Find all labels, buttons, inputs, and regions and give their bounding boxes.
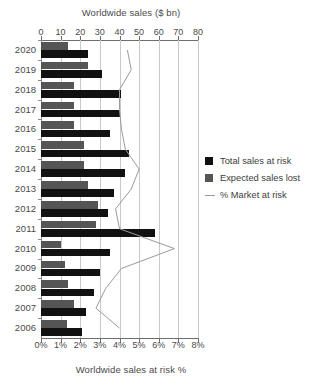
bottom-tick-label: 5% [133,340,146,350]
chart-legend: Total sales at riskExpected sales lost% … [205,155,317,206]
year-label: 2017 [15,104,36,115]
plot-area: 2020201920182017201620152014201320122011… [41,40,198,338]
bottom-tick-label: 4% [113,340,126,350]
year-label: 2019 [15,64,36,75]
legend-item[interactable]: Expected sales lost [205,172,317,184]
bottom-tick-label: 6% [152,340,165,350]
year-label: 2020 [15,44,36,55]
year-label: 2018 [15,84,36,95]
bottom-axis-title: Worldwide sales at risk % [0,364,320,375]
year-label: 2016 [15,123,36,134]
legend-label: Total sales at risk [220,155,291,167]
year-label: 2013 [15,183,36,194]
top-axis-tick-labels: 01020304050607080 [0,27,320,39]
bottom-tick-label: 2% [74,340,87,350]
year-label: 2014 [15,163,36,174]
year-label: 2006 [15,322,36,333]
legend-item[interactable]: % Market at risk [205,189,317,201]
chart-container: Worldwide sales ($ bn) 01020304050607080… [0,0,320,387]
top-axis-title: Worldwide sales ($ bn) [0,7,320,18]
bottom-tick-label: 1% [54,340,67,350]
year-label: 2011 [16,223,36,234]
market-at-risk-polyline [96,50,175,328]
year-label: 2008 [15,282,36,293]
legend-square-swatch-icon [205,157,213,165]
bottom-tick-label: 7% [172,340,185,350]
year-label: 2009 [15,262,36,273]
bottom-tick-label: 8% [191,340,204,350]
year-label: 2007 [15,302,36,313]
year-label: 2012 [15,203,36,214]
legend-label: Expected sales lost [220,172,300,184]
year-label: 2015 [15,143,36,154]
legend-line-swatch-icon [205,195,215,196]
legend-item[interactable]: Total sales at risk [205,155,317,167]
legend-square-swatch-icon [205,174,213,182]
bottom-tick-label: 0% [34,340,47,350]
legend-label: % Market at risk [220,189,287,201]
bottom-tick-label: 3% [93,340,106,350]
bottom-axis-tick-labels: 0%1%2%3%4%5%6%7%8% [0,340,320,352]
year-label: 2010 [15,243,36,254]
